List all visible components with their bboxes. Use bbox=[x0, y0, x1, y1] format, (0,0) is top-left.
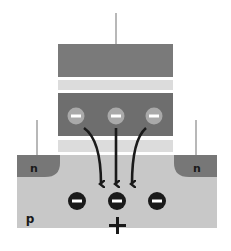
channel-charge-3 bbox=[148, 192, 166, 210]
n-label-left: n bbox=[30, 162, 38, 175]
p-label: p bbox=[26, 212, 35, 226]
stored-charge-2 bbox=[108, 108, 125, 125]
channel-charge-1 bbox=[68, 192, 86, 210]
control-gate bbox=[58, 44, 173, 77]
n-label-right: n bbox=[193, 162, 201, 175]
memory-cell-diagram: n n p bbox=[0, 0, 231, 251]
stored-charge-1 bbox=[68, 108, 85, 125]
upper-oxide bbox=[58, 80, 173, 90]
channel-charge-2 bbox=[108, 192, 126, 210]
stored-charge-3 bbox=[146, 108, 163, 125]
n-region-left bbox=[17, 155, 60, 177]
